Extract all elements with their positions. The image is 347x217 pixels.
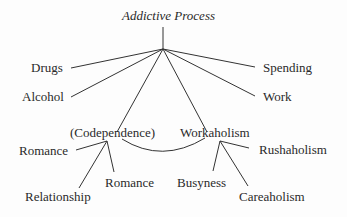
label-workaholism: Workaholism [180,126,250,139]
label-busyness: Busyness [177,176,226,189]
diagram-title: Addictive Process [122,9,215,22]
label-alcohol: Alcohol [22,90,64,103]
label-romance-left: Romance [19,144,68,157]
label-codependence: (Codependence) [70,126,155,139]
line-spending [163,49,255,67]
label-careaholism: Careaholism [239,190,305,203]
line-busyness [213,141,220,171]
label-drugs: Drugs [31,61,63,74]
line-drugs [71,49,163,68]
line-rushaholism [220,141,249,148]
connector-lines [0,0,347,217]
line-romance [107,141,114,172]
label-romance: Romance [105,176,154,189]
line-workaholism [163,49,207,132]
label-relationship: Relationship [25,190,91,203]
line-work [163,49,255,96]
addictive-process-diagram: Addictive Process Drugs Alcohol Spending… [0,0,347,217]
label-spending: Spending [263,61,312,74]
label-rushaholism: Rushaholism [259,143,327,156]
label-work: Work [263,90,292,103]
